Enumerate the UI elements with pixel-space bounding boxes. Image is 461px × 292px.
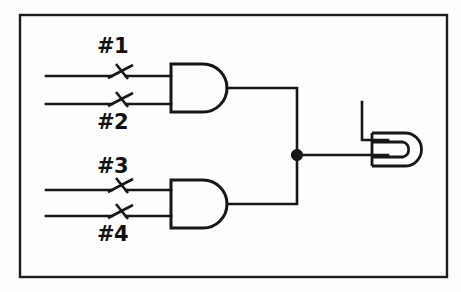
- figure-border: [20, 15, 447, 277]
- switch-1-label: #1: [97, 36, 128, 57]
- and-gate-top[interactable]: [171, 64, 227, 112]
- load-outer-loop: [372, 133, 422, 166]
- switch-4-label: #4: [97, 224, 128, 245]
- schematic-figure: #1 #2 #3 #4: [0, 0, 461, 292]
- switch-2-label: #2: [97, 112, 128, 133]
- switch-3-label: #3: [97, 156, 128, 177]
- and-gate-bottom-output-wire: [227, 155, 297, 204]
- and-gate-bottom[interactable]: [171, 180, 227, 228]
- and-gate-top-output-wire: [227, 88, 297, 155]
- circuit-diagram-canvas: [0, 0, 461, 292]
